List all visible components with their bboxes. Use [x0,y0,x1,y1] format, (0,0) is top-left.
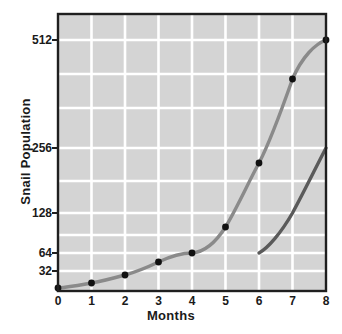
y-tick-label-64: 64 [8,246,52,260]
x-tick-label-1: 1 [80,294,104,308]
x-tick-label-4: 4 [180,294,204,308]
chart-figure: 512 256 128 64 32 0 1 2 3 4 5 6 7 8 Mont… [0,0,342,334]
x-axis-title: Months [0,308,342,323]
x-tick-label-8: 8 [314,294,338,308]
x-tick-label-6: 6 [247,294,271,308]
x-tick-label-5: 5 [214,294,238,308]
x-tick-label-0: 0 [46,294,70,308]
y-tick-label-512: 512 [8,33,52,47]
x-tick-label-2: 2 [113,294,137,308]
y-tick-label-32: 32 [8,264,52,278]
x-tick-label-3: 3 [147,294,171,308]
y-axis-title: Snail Population [18,72,33,232]
plot-canvas [0,0,342,334]
x-tick-label-7: 7 [281,294,305,308]
